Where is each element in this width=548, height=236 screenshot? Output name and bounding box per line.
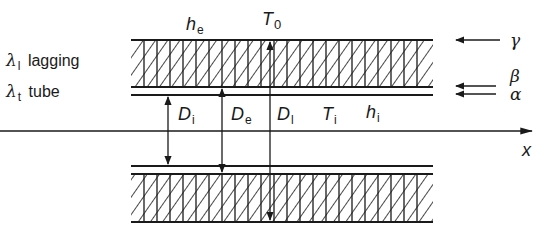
label-main: D: [178, 104, 191, 124]
label-hi: hi: [366, 103, 380, 121]
label-main: T: [262, 9, 273, 29]
top-lagging: [131, 40, 433, 87]
label-main: h: [186, 14, 196, 34]
label-main: h: [366, 102, 376, 122]
label-sub: i: [192, 113, 195, 127]
lambda-symbol: λ: [6, 50, 17, 70]
legend-lagging: λl lagging: [6, 52, 80, 69]
lambda-symbol: λ: [6, 81, 17, 101]
label-sub: e: [197, 23, 204, 37]
label-sub: i: [334, 113, 337, 127]
label-sub: 0: [274, 17, 281, 32]
label-gamma: γ: [510, 32, 520, 49]
label-main: T: [322, 104, 333, 124]
lambda-subscript: t: [18, 90, 21, 104]
label-main: D: [231, 104, 244, 124]
label-beta: β: [510, 68, 520, 85]
label-main: D: [277, 104, 290, 124]
axis-label-x: x: [522, 141, 531, 159]
legend-label: lagging: [28, 52, 80, 69]
label-he: he: [186, 15, 204, 33]
label-dl: Dl: [277, 105, 294, 123]
bottom-lagging: [131, 174, 433, 222]
label-ti: Ti: [322, 105, 337, 123]
label-di: Di: [178, 105, 195, 123]
label-t0: T0: [262, 10, 281, 28]
label-sub: l: [291, 113, 294, 127]
legend-label: tube: [29, 83, 60, 100]
legend-tube: λt tube: [6, 83, 60, 100]
tube-diagram: [0, 0, 548, 236]
label-de: De: [231, 105, 252, 123]
label-sub: e: [245, 113, 252, 127]
label-sub: i: [377, 111, 380, 125]
label-alpha: α: [510, 86, 521, 103]
